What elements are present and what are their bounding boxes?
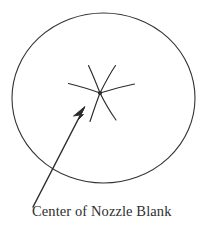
- star-spoke-down-left: [90, 93, 100, 122]
- star-spoke-right: [100, 84, 135, 93]
- figure-root: Center of Nozzle Blank: [0, 0, 206, 225]
- nozzle-blank-outline: [12, 13, 195, 183]
- star-spoke-up-left: [89, 66, 101, 94]
- nozzle-blank-diagram: [0, 0, 206, 225]
- star-spoke-down-right: [100, 93, 116, 120]
- star-spoke-left: [69, 84, 101, 94]
- leader-arrow-shaft: [33, 108, 84, 207]
- star-center-dot: [98, 91, 102, 95]
- leader-arrow-head: [74, 107, 86, 120]
